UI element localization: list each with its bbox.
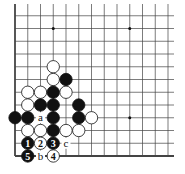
black-stone xyxy=(9,112,21,124)
black-stone xyxy=(22,112,34,124)
black-stone xyxy=(47,112,59,124)
white-stone xyxy=(85,112,97,124)
white-stone xyxy=(22,86,34,98)
black-stone xyxy=(73,112,85,124)
mark-label-a: a xyxy=(38,111,43,123)
svg-text:5: 5 xyxy=(25,151,30,162)
black-stone xyxy=(60,73,72,85)
white-stone xyxy=(60,86,72,98)
svg-text:2: 2 xyxy=(38,138,43,149)
star-point xyxy=(128,27,131,30)
move-1-black-stone: 1 xyxy=(22,137,34,149)
mark-label-c: c xyxy=(64,137,69,149)
white-stone xyxy=(60,124,72,136)
black-stone xyxy=(47,86,59,98)
svg-text:4: 4 xyxy=(51,151,56,162)
white-stone xyxy=(22,124,34,136)
move-4-white-stone: 4 xyxy=(47,150,59,162)
white-stone xyxy=(47,73,59,85)
black-stone xyxy=(34,99,46,111)
move-2-white-stone: 2 xyxy=(34,137,46,149)
stones: 12345 xyxy=(9,61,98,163)
svg-text:1: 1 xyxy=(25,138,30,149)
white-stone xyxy=(34,86,46,98)
go-board: abc 12345 xyxy=(0,0,185,174)
white-stone xyxy=(34,124,46,136)
white-stone xyxy=(47,61,59,73)
star-point xyxy=(52,27,55,30)
white-stone xyxy=(22,99,34,111)
move-3-black-stone: 3 xyxy=(47,137,59,149)
black-stone xyxy=(47,99,59,111)
svg-text:3: 3 xyxy=(51,138,56,149)
black-stone xyxy=(73,99,85,111)
black-stone xyxy=(47,124,59,136)
star-point xyxy=(128,116,131,119)
white-stone xyxy=(73,124,85,136)
mark-label-b: b xyxy=(38,150,44,162)
move-5-black-stone: 5 xyxy=(22,150,34,162)
